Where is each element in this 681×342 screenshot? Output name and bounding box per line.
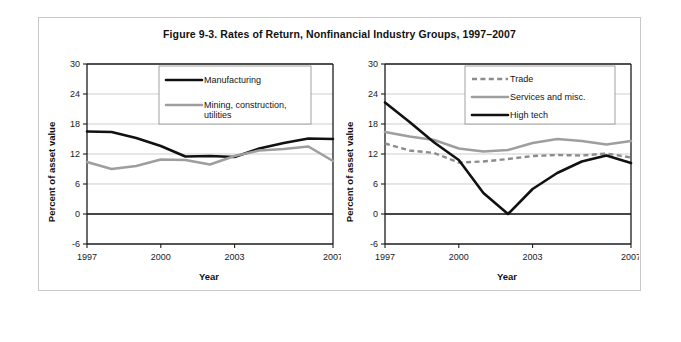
y-tick-label: 12 <box>368 149 378 159</box>
chart-panel-right: -606121824301997200020032007 TradeServic… <box>339 54 639 286</box>
x-tick-label: 1997 <box>375 252 395 262</box>
x-tick-label: 2003 <box>225 252 245 262</box>
left-legend: ManufacturingMining, construction,utilit… <box>159 66 311 124</box>
series-line-mining-construction-utilities <box>87 147 333 170</box>
figure-title: Figure 9-3. Rates of Return, Nonfinancia… <box>39 28 640 40</box>
legend-label: Trade <box>510 74 533 84</box>
y-tick-label: 6 <box>75 179 80 189</box>
figure-container: Figure 9-3. Rates of Return, Nonfinancia… <box>38 17 641 291</box>
y-tick-label: 24 <box>368 89 378 99</box>
y-tick-label: 12 <box>70 149 80 159</box>
y-tick-label: -6 <box>72 239 80 249</box>
y-tick-label: 24 <box>70 89 80 99</box>
right-chart-svg: -606121824301997200020032007 TradeServic… <box>339 54 639 286</box>
right-legend: TradeServices and misc.High tech <box>465 66 615 124</box>
series-line-services-and-misc <box>385 132 631 152</box>
legend-label: Mining, construction, <box>204 100 287 110</box>
chart-panel-left: -606121824301997200020032007 Manufacturi… <box>41 54 341 286</box>
y-tick-label: 0 <box>373 209 378 219</box>
y-tick-label: 30 <box>368 59 378 69</box>
legend-label: Manufacturing <box>204 75 261 85</box>
y-tick-label: 18 <box>70 119 80 129</box>
x-axis-label: Year <box>199 271 219 282</box>
left-series <box>87 132 333 170</box>
y-tick-label: 30 <box>70 59 80 69</box>
y-tick-label: -6 <box>370 239 378 249</box>
x-tick-label: 2007 <box>621 252 639 262</box>
y-tick-label: 0 <box>75 209 80 219</box>
legend-label: Services and misc. <box>510 92 586 102</box>
y-axis-label: Percent of asset value <box>344 122 355 222</box>
x-tick-label: 2000 <box>449 252 469 262</box>
x-tick-label: 2003 <box>523 252 543 262</box>
legend-label: High tech <box>510 110 548 120</box>
x-tick-label: 1997 <box>77 252 97 262</box>
y-tick-label: 18 <box>368 119 378 129</box>
y-tick-label: 6 <box>373 179 378 189</box>
x-tick-label: 2000 <box>151 252 171 262</box>
x-axis-label: Year <box>497 271 517 282</box>
legend-label-cont: utilities <box>204 110 232 120</box>
left-chart-svg: -606121824301997200020032007 Manufacturi… <box>41 54 341 286</box>
y-axis-label: Percent of asset value <box>46 122 57 222</box>
series-line-manufacturing <box>87 132 333 158</box>
